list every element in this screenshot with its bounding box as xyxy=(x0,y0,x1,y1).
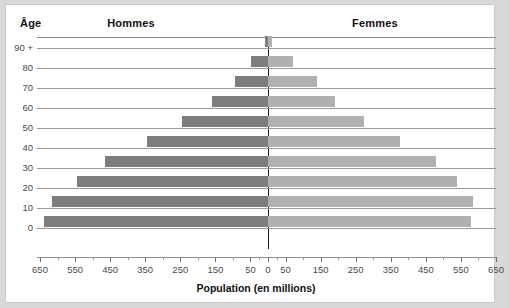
x-axis-minor-tick xyxy=(163,257,164,260)
x-axis-minor-tick xyxy=(303,257,304,260)
x-axis-tick-label: 450 xyxy=(90,264,130,275)
gridline xyxy=(37,208,496,209)
bar-hommes xyxy=(251,56,268,67)
x-axis-minor-tick xyxy=(408,257,409,260)
x-axis-tick xyxy=(461,257,462,262)
chart-frame: Âge Hommes Femmes 90 +80706050403020100 … xyxy=(6,5,494,302)
bar-femmes xyxy=(268,96,335,107)
x-axis-tick-label: 150 xyxy=(195,264,235,275)
x-axis-minor-tick xyxy=(128,257,129,260)
bar-hommes xyxy=(105,156,268,167)
bar-femmes xyxy=(268,56,293,67)
gridline xyxy=(37,228,496,229)
x-axis-minor-tick xyxy=(58,257,59,260)
legend-label-hommes: Hommes xyxy=(6,17,256,29)
gridline xyxy=(37,108,496,109)
y-axis-tick-label: 0 xyxy=(6,222,33,233)
x-axis-tick xyxy=(321,257,322,262)
bar-femmes xyxy=(268,116,364,127)
bar-femmes xyxy=(268,36,272,47)
gridline xyxy=(37,148,496,149)
gridline xyxy=(37,68,496,69)
x-axis-tick xyxy=(268,257,269,262)
x-axis xyxy=(37,257,496,264)
gridline xyxy=(37,168,496,169)
x-axis-tick-label: 350 xyxy=(125,264,165,275)
bar-femmes xyxy=(268,76,317,87)
x-axis-tick-label: 650 xyxy=(476,264,509,275)
x-axis-tick-label: 50 xyxy=(266,264,306,275)
y-axis-tick-label: 20 xyxy=(6,182,33,193)
x-axis-minor-tick xyxy=(198,257,199,260)
bar-femmes xyxy=(268,216,471,227)
bar-femmes xyxy=(268,136,400,147)
bar-hommes xyxy=(52,196,268,207)
x-axis-tick xyxy=(145,257,146,262)
x-axis-tick xyxy=(110,257,111,262)
x-axis-minor-tick xyxy=(373,257,374,260)
x-axis-tick-label: 150 xyxy=(301,264,341,275)
x-axis-tick xyxy=(75,257,76,262)
x-axis-tick xyxy=(180,257,181,262)
x-axis-minor-tick xyxy=(338,257,339,260)
x-axis-tick xyxy=(426,257,427,262)
bar-femmes xyxy=(268,156,436,167)
x-axis-tick xyxy=(250,257,251,262)
gridline xyxy=(37,48,496,49)
x-axis-minor-tick xyxy=(259,257,260,260)
legend-label-femmes: Femmes xyxy=(256,17,494,29)
plot-area xyxy=(37,37,496,249)
x-axis-minor-tick xyxy=(93,257,94,260)
x-axis-tick xyxy=(391,257,392,262)
y-axis-tick-label: 50 xyxy=(6,122,33,133)
bar-hommes xyxy=(147,136,268,147)
y-axis-tick-label: 80 xyxy=(6,62,33,73)
bar-femmes xyxy=(268,196,473,207)
x-axis-tick-label: 550 xyxy=(441,264,481,275)
bar-femmes xyxy=(268,176,457,187)
y-axis-tick-label: 10 xyxy=(6,202,33,213)
x-axis-line xyxy=(37,257,496,258)
y-axis-tick-label: 90 + xyxy=(6,42,33,53)
x-axis-minor-tick xyxy=(443,257,444,260)
y-axis-tick-label: 30 xyxy=(6,162,33,173)
x-axis-minor-tick xyxy=(478,257,479,260)
y-axis-tick-label: 70 xyxy=(6,82,33,93)
x-axis-tick xyxy=(215,257,216,262)
bar-hommes xyxy=(235,76,268,87)
x-axis-tick-label: 450 xyxy=(406,264,446,275)
bar-hommes xyxy=(77,176,268,187)
bar-hommes xyxy=(212,96,268,107)
x-axis-tick-label: 250 xyxy=(336,264,376,275)
x-axis-minor-tick xyxy=(277,257,278,260)
x-axis-tick xyxy=(356,257,357,262)
x-axis-tick xyxy=(496,257,497,262)
x-axis-tick xyxy=(40,257,41,262)
bar-hommes xyxy=(44,216,268,227)
x-axis-tick xyxy=(286,257,287,262)
gridline xyxy=(37,188,496,189)
x-axis-minor-tick xyxy=(233,257,234,260)
y-axis-tick-label: 40 xyxy=(6,142,33,153)
x-axis-tick-label: 550 xyxy=(55,264,95,275)
bar-hommes xyxy=(182,116,268,127)
x-axis-tick-label: 350 xyxy=(371,264,411,275)
y-axis-tick-label: 60 xyxy=(6,102,33,113)
gridline xyxy=(37,88,496,89)
x-axis-title: Population (en millions) xyxy=(6,282,506,294)
x-axis-tick-label: 650 xyxy=(20,264,60,275)
x-axis-tick-label: 250 xyxy=(160,264,200,275)
gridline xyxy=(37,128,496,129)
